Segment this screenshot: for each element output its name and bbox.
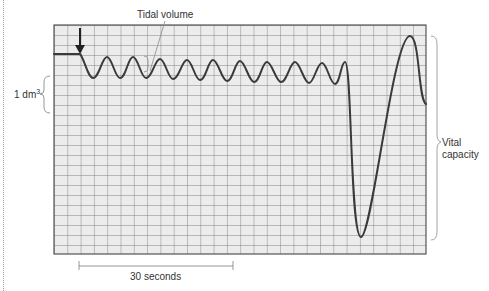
volume-scale-brace [40, 76, 50, 113]
vital-capacity-label-line2: capacity [442, 149, 479, 161]
volume-scale-label: 1 dm3 [14, 88, 40, 100]
time-scale-label: 30 seconds [130, 271, 181, 282]
vital-capacity-label: Vital capacity [442, 137, 479, 161]
vital-capacity-label-line1: Vital [442, 137, 479, 149]
volume-scale-exponent: 3 [36, 88, 40, 95]
vital-capacity-brace [431, 36, 441, 240]
time-scale-bar [79, 261, 233, 270]
spirometer-figure [0, 0, 489, 291]
volume-scale-value: 1 dm [14, 89, 36, 100]
tidal-volume-label: Tidal volume [137, 9, 193, 20]
